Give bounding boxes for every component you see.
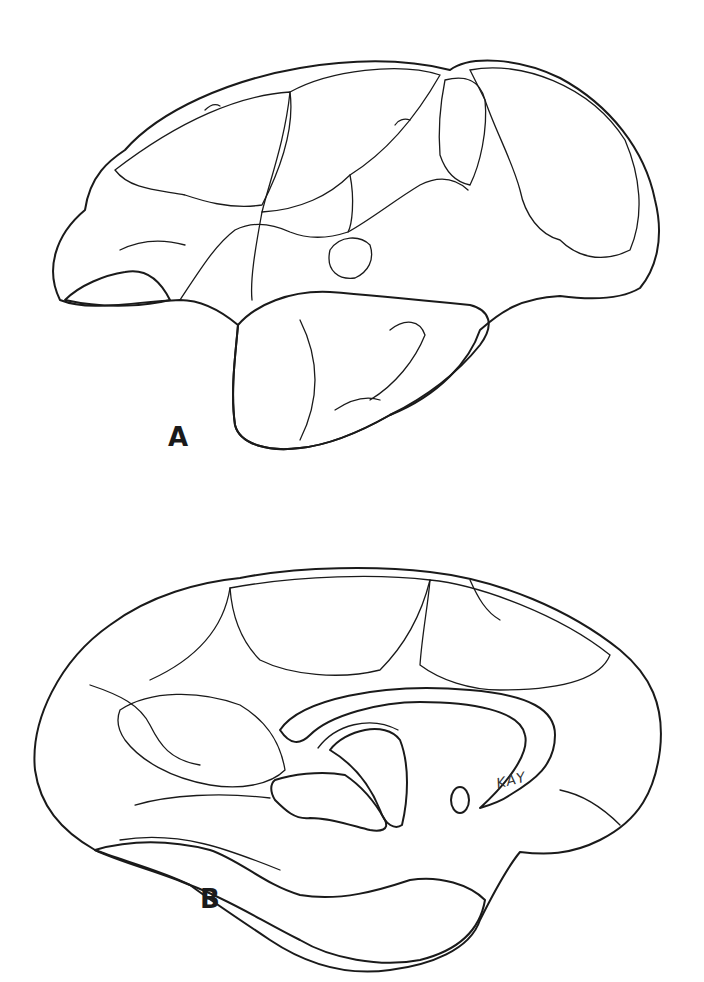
corpus-callosum xyxy=(280,688,555,808)
thalamus xyxy=(330,729,407,827)
brain-medial-view-panel: B KAY xyxy=(0,540,704,982)
cingulate-sulcus-anterior xyxy=(560,790,620,825)
precentral-gyrus xyxy=(262,69,440,212)
opercular-region xyxy=(329,238,372,278)
panel-label-b: B xyxy=(200,886,220,912)
postcentral-gyrus xyxy=(439,78,485,185)
collateral-sulcus xyxy=(135,795,270,805)
orbital-surface xyxy=(65,271,170,306)
lateral-sulcus xyxy=(180,179,468,300)
central-sulcus xyxy=(348,175,353,232)
fornix xyxy=(318,723,398,748)
precuneus xyxy=(420,580,610,690)
temporal-pole-fold xyxy=(335,398,380,410)
hemisphere-outline xyxy=(34,568,660,972)
calcarine-cortex xyxy=(118,694,285,787)
temporal-lobe xyxy=(233,292,489,449)
occipital-lobe-region xyxy=(470,68,639,258)
brain-medial-view-drawing xyxy=(0,540,704,982)
frontal-lobe-region xyxy=(115,92,291,206)
parieto-occipital-sulcus xyxy=(150,588,230,680)
superior-temporal-sulcus xyxy=(300,320,315,440)
anterior-commissure xyxy=(451,787,469,813)
hemisphere-outline xyxy=(53,61,659,450)
brain-lateral-view-panel: A xyxy=(0,0,704,490)
frontal-sulcus xyxy=(120,241,185,250)
brain-lateral-view-drawing xyxy=(0,0,704,490)
calcarine-sulcus xyxy=(90,685,200,765)
panel-label-a: A xyxy=(168,424,188,450)
inferior-temporal-sulcus xyxy=(370,322,425,400)
superior-frontal-gyrus-medial xyxy=(230,576,430,675)
parahippocampal-gyrus xyxy=(95,843,485,963)
diencephalon-cut xyxy=(271,773,386,831)
